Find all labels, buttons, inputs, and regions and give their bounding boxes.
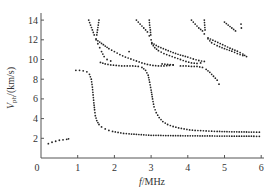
data-point <box>213 75 215 77</box>
data-point <box>117 131 119 133</box>
series-mode-4b <box>161 63 174 66</box>
data-point <box>93 99 95 101</box>
data-point <box>136 19 138 21</box>
data-point <box>96 120 98 122</box>
data-point <box>123 132 125 134</box>
data-point <box>175 135 177 137</box>
data-point <box>193 62 195 64</box>
data-point <box>231 50 233 52</box>
data-point <box>177 53 179 55</box>
data-point <box>246 56 248 58</box>
data-point <box>192 135 194 137</box>
data-point <box>219 46 221 48</box>
data-point <box>199 66 201 68</box>
data-point <box>91 81 93 83</box>
data-point <box>203 130 205 132</box>
data-point <box>121 65 123 67</box>
data-point <box>162 121 164 123</box>
series-mode-7 <box>151 42 205 63</box>
data-point <box>106 47 108 49</box>
data-point <box>104 63 106 65</box>
data-point <box>165 135 167 137</box>
data-point <box>204 24 206 26</box>
data-point <box>248 135 250 137</box>
x-tick-label: 4 <box>185 162 190 173</box>
data-point <box>136 60 138 62</box>
data-point <box>172 52 174 54</box>
data-point <box>196 25 198 27</box>
data-point <box>193 66 195 68</box>
data-point <box>244 54 246 56</box>
data-point <box>92 94 94 96</box>
data-point <box>231 131 233 133</box>
data-point <box>128 133 130 135</box>
data-point <box>229 47 231 49</box>
series-mode-8b <box>203 19 206 31</box>
data-point <box>149 84 151 86</box>
data-point <box>246 135 248 137</box>
data-point <box>194 130 196 132</box>
data-point <box>205 68 207 70</box>
data-point <box>125 133 127 135</box>
data-point <box>209 135 211 137</box>
data-point <box>240 27 242 29</box>
data-point <box>93 34 95 36</box>
data-point <box>178 127 180 129</box>
data-point <box>149 29 151 31</box>
y-axis-unit: /(km/s) <box>5 67 17 96</box>
data-point <box>92 32 94 34</box>
data-point <box>186 129 188 131</box>
y-tick-label: 10 <box>28 54 38 65</box>
data-point <box>160 119 162 121</box>
data-point <box>96 32 98 34</box>
data-point <box>187 135 189 137</box>
data-point <box>258 131 260 133</box>
data-point <box>158 134 160 136</box>
data-point <box>182 135 184 137</box>
data-point <box>203 33 205 35</box>
data-point <box>196 63 198 65</box>
x-tick-label: 2 <box>112 162 117 173</box>
data-point <box>241 135 243 137</box>
data-point <box>151 91 153 93</box>
data-point <box>146 72 148 74</box>
data-point <box>192 58 194 60</box>
data-point <box>92 91 94 93</box>
data-point <box>110 64 112 66</box>
data-point <box>111 49 113 51</box>
data-point <box>91 86 93 88</box>
data-point <box>151 43 153 45</box>
data-point <box>256 131 258 133</box>
data-point <box>194 135 196 137</box>
data-point <box>110 60 112 62</box>
data-point <box>94 112 96 114</box>
data-point <box>119 54 121 56</box>
data-point <box>149 27 151 29</box>
data-point <box>236 53 238 55</box>
data-point <box>227 46 229 48</box>
data-point <box>170 64 172 66</box>
data-point <box>151 96 153 98</box>
data-point <box>197 135 199 137</box>
data-point <box>229 49 231 51</box>
series-mode-10 <box>224 21 237 32</box>
data-point <box>229 135 231 137</box>
data-point <box>137 65 139 67</box>
data-point <box>90 24 92 26</box>
data-point <box>128 51 130 53</box>
data-point <box>153 134 155 136</box>
data-point <box>155 65 157 67</box>
data-point <box>167 124 169 126</box>
data-point <box>98 22 100 24</box>
data-point <box>189 135 191 137</box>
data-point <box>47 143 49 145</box>
data-point <box>101 51 103 53</box>
data-point <box>155 112 157 114</box>
data-point <box>180 135 182 137</box>
data-point <box>97 29 99 31</box>
data-point <box>235 30 237 32</box>
data-point <box>158 65 160 67</box>
series-mode-6b <box>148 19 151 36</box>
data-point <box>99 47 101 49</box>
data-point <box>170 51 172 53</box>
